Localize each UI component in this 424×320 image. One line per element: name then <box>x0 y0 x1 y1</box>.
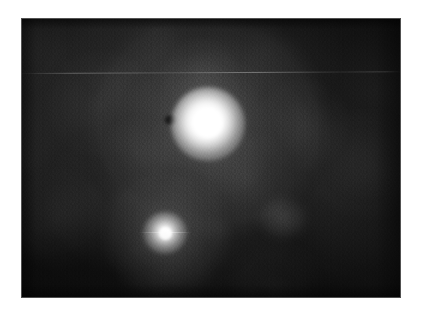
right-edge-shading <box>375 18 401 298</box>
bottom-edge-shading <box>21 284 401 298</box>
page-root <box>0 0 424 320</box>
secondary-bright-source-core <box>159 227 172 240</box>
primary-bright-source-core <box>193 108 223 138</box>
left-edge-shading <box>21 18 37 298</box>
top-edge-shading <box>21 18 401 29</box>
astronomical-image-plate[interactable] <box>21 18 401 298</box>
